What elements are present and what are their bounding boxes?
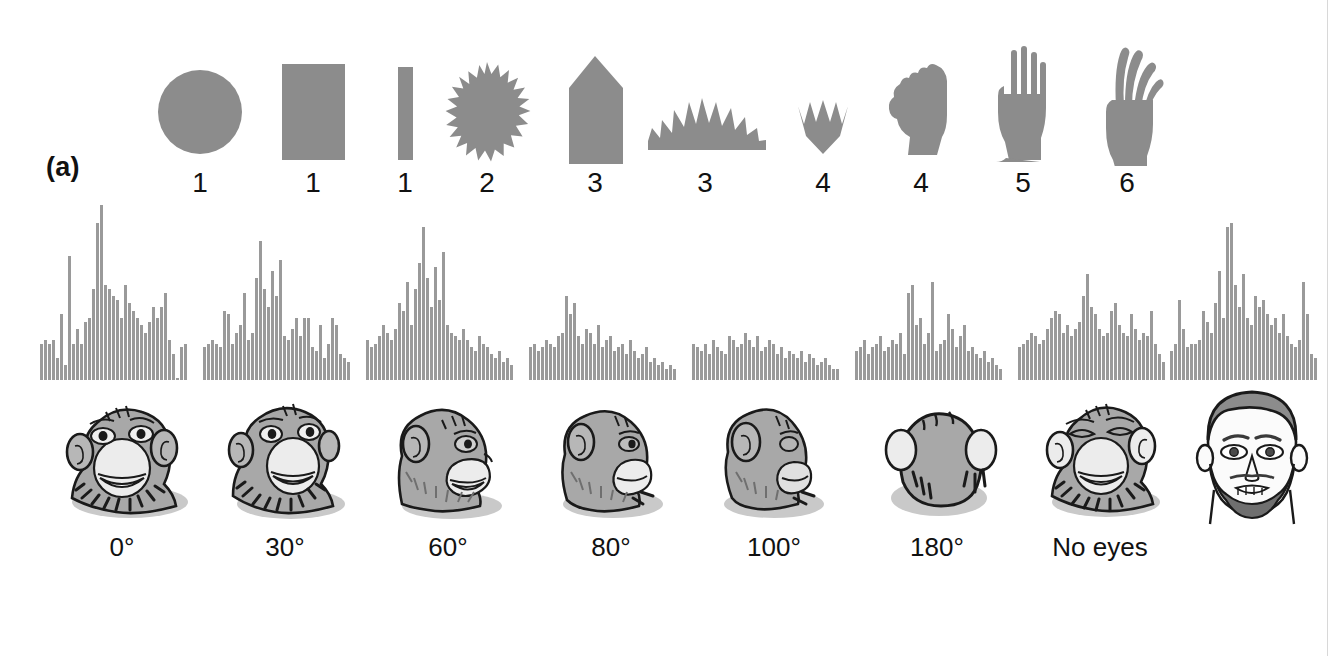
histogram-bar — [68, 256, 71, 380]
histogram-bars — [40, 205, 187, 380]
histogram-bar — [1114, 303, 1117, 380]
histogram-bar — [1134, 329, 1137, 380]
histogram-bar — [796, 358, 799, 380]
histogram-bar — [1298, 340, 1301, 380]
histogram-bar — [335, 325, 338, 380]
histogram-bar — [1150, 311, 1153, 380]
histogram-bar — [1154, 344, 1157, 380]
stimulus-label: No eyes — [1018, 532, 1182, 563]
histogram-bar — [215, 344, 218, 380]
histogram-bar — [227, 314, 230, 380]
histogram-bar — [887, 347, 890, 380]
histogram-bar — [243, 293, 246, 381]
histogram-bar — [1110, 311, 1113, 380]
shape-rating-label: 4 — [866, 166, 976, 200]
histogram-bar — [203, 347, 206, 380]
histogram-bar — [267, 307, 270, 380]
histogram-bar — [577, 336, 580, 380]
histogram-bar — [279, 260, 282, 380]
histogram-bar — [907, 293, 910, 381]
monkey-face-60-icon — [368, 386, 528, 526]
open-hand-shape-box — [968, 36, 1078, 166]
histogram-bar — [394, 329, 397, 380]
histogram-bar — [84, 322, 87, 380]
monkey-face-front-icon — [42, 386, 202, 526]
histogram-bar — [665, 369, 668, 380]
histogram-bar — [1218, 271, 1221, 380]
histogram-bar — [1042, 340, 1045, 380]
closed-fist-shape-icon — [866, 36, 976, 166]
histogram-bar — [987, 362, 990, 380]
stimulus-image — [692, 386, 856, 526]
histogram-bar — [740, 344, 743, 380]
shape-cell-half-starburst: 3 — [650, 36, 760, 200]
histogram-bar — [1102, 336, 1105, 380]
histogram-bar — [283, 336, 286, 380]
pointed-column-shape-box — [540, 36, 650, 166]
histogram-bar — [160, 307, 163, 380]
histogram-bar — [1026, 340, 1029, 380]
stimulus-column — [1170, 205, 1334, 532]
histogram-bar — [1146, 336, 1149, 380]
histogram-bar — [1198, 340, 1201, 380]
stimulus-column: No eyes — [1018, 205, 1182, 563]
histogram-bar — [1258, 307, 1261, 380]
circle-shape-box — [145, 36, 255, 166]
histogram-bar — [454, 336, 457, 380]
shape-rating-label: 5 — [968, 166, 1078, 200]
histogram-bar — [1126, 336, 1129, 380]
histogram-bar — [1202, 311, 1205, 380]
histogram-bar — [744, 333, 747, 380]
histogram-bar — [48, 344, 51, 380]
histogram-bar — [712, 340, 715, 380]
histogram-bar — [1242, 274, 1245, 380]
histogram-bar — [184, 344, 187, 380]
histogram-bar — [172, 354, 175, 380]
histogram-bar — [669, 365, 672, 380]
histogram-bar — [366, 340, 369, 380]
starburst-shape-box — [432, 36, 542, 166]
half-starburst-shape-box — [650, 36, 760, 166]
histogram-bar — [120, 318, 123, 380]
histogram-bar — [494, 358, 497, 380]
human-face-front-icon — [1172, 378, 1332, 528]
histogram-bar — [609, 336, 612, 380]
stimulus-image — [1018, 386, 1182, 526]
histogram-bar — [1302, 282, 1305, 380]
histogram-bar — [1078, 322, 1081, 380]
histogram-bar — [637, 358, 640, 380]
figure-canvas: (a) 1 1 1 — [0, 0, 1338, 656]
histogram-bar — [541, 347, 544, 380]
histogram-bar — [247, 340, 250, 380]
histogram-bar — [1130, 314, 1133, 380]
histogram-bar — [490, 354, 493, 380]
histogram-bar — [80, 344, 83, 380]
histogram-bar — [939, 344, 942, 380]
histogram-bar — [784, 358, 787, 380]
histogram-bar — [458, 340, 461, 380]
histogram-bar — [549, 344, 552, 380]
histogram-bars — [1170, 205, 1317, 380]
curved-hand-shape-box — [1072, 36, 1182, 166]
histogram-bar — [108, 289, 111, 380]
histogram-bar — [502, 362, 505, 380]
histogram-bar — [100, 205, 103, 380]
shape-rating-label: 2 — [432, 166, 542, 200]
histogram-bar — [649, 362, 652, 380]
psth-histogram — [40, 205, 204, 380]
histogram-bar — [1174, 344, 1177, 380]
histogram-bar — [1046, 329, 1049, 380]
histogram-bars — [366, 205, 513, 380]
histogram-bar — [1274, 318, 1277, 380]
histogram-bar — [211, 340, 214, 380]
stimulus-image — [366, 386, 530, 526]
histogram-bar — [1266, 314, 1269, 380]
histogram-bar — [486, 347, 489, 380]
open-hand-shape-icon — [968, 36, 1078, 166]
histogram-bar — [116, 300, 119, 380]
histogram-bar — [653, 358, 656, 380]
shape-rating-label: 1 — [145, 166, 255, 200]
histogram-bar — [720, 351, 723, 380]
histogram-bar — [657, 365, 660, 380]
stimulus-column: 30° — [203, 205, 367, 563]
